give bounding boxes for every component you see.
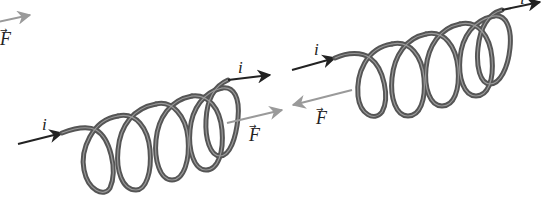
coil-panel-forward: i i → F bbox=[18, 58, 282, 192]
current-in-label: i bbox=[314, 40, 319, 59]
current-out-label: i bbox=[238, 58, 243, 77]
force-arrow bbox=[0, 15, 30, 22]
helical-coil bbox=[62, 80, 238, 192]
partial-panel: → F bbox=[0, 15, 30, 49]
force-label: F bbox=[248, 125, 261, 145]
current-in-arrow bbox=[18, 133, 62, 144]
diagram-canvas: → F i i bbox=[0, 0, 549, 197]
current-out-arrow bbox=[228, 75, 270, 80]
force-arrow bbox=[293, 90, 352, 105]
force-label: F bbox=[315, 108, 328, 128]
coil-panel-backward: i i → F bbox=[292, 0, 540, 128]
current-in-arrow bbox=[292, 58, 335, 70]
force-label: F bbox=[0, 29, 12, 49]
helical-coil bbox=[335, 10, 510, 116]
current-in-label: i bbox=[42, 115, 47, 134]
current-out-label: i bbox=[520, 0, 525, 8]
